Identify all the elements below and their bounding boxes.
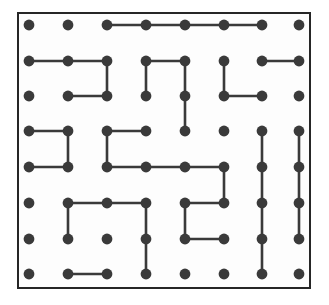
grid-dot-r0-c6[interactable] xyxy=(257,20,268,31)
grid-dot-r2-c3[interactable] xyxy=(141,91,152,102)
grid-dot-r4-c3[interactable] xyxy=(141,162,152,173)
grid-dot-r5-c6[interactable] xyxy=(257,198,268,209)
grid-dot-r5-c3[interactable] xyxy=(141,198,152,209)
grid-dot-r2-c1[interactable] xyxy=(63,91,74,102)
grid-dot-r7-c1[interactable] xyxy=(63,269,74,280)
grid-dot-r6-c2[interactable] xyxy=(102,234,113,245)
grid-dot-r3-c5[interactable] xyxy=(219,126,230,137)
grid-dot-r7-c3[interactable] xyxy=(141,269,152,280)
grid-dot-r7-c5[interactable] xyxy=(219,269,230,280)
grid-dot-r3-c1[interactable] xyxy=(63,126,74,137)
grid-dot-r3-c3[interactable] xyxy=(141,126,152,137)
grid-dot-r4-c2[interactable] xyxy=(102,162,113,173)
grid-dot-r7-c7[interactable] xyxy=(294,269,305,280)
grid-dot-r6-c1[interactable] xyxy=(63,234,74,245)
grid-dot-r1-c5[interactable] xyxy=(219,56,230,67)
grid-dot-r6-c3[interactable] xyxy=(141,234,152,245)
grid-dot-r1-c1[interactable] xyxy=(63,56,74,67)
grid-dot-r6-c4[interactable] xyxy=(180,234,191,245)
grid-dot-r4-c7[interactable] xyxy=(294,162,305,173)
grid-dot-r5-c5[interactable] xyxy=(219,198,230,209)
grid-dot-r4-c4[interactable] xyxy=(180,162,191,173)
grid-dot-r4-c1[interactable] xyxy=(63,162,74,173)
grid-dot-r2-c2[interactable] xyxy=(102,91,113,102)
grid-dot-r7-c4[interactable] xyxy=(180,269,191,280)
grid-dot-r4-c5[interactable] xyxy=(219,162,230,173)
grid-dot-r4-c0[interactable] xyxy=(24,162,35,173)
grid-dot-r0-c0[interactable] xyxy=(24,20,35,31)
grid-dot-r1-c2[interactable] xyxy=(102,56,113,67)
grid-dot-r5-c4[interactable] xyxy=(180,198,191,209)
grid-dot-r7-c0[interactable] xyxy=(24,269,35,280)
grid-dot-r7-c6[interactable] xyxy=(257,269,268,280)
grid-dot-r6-c7[interactable] xyxy=(294,234,305,245)
grid-dot-r1-c4[interactable] xyxy=(180,56,191,67)
grid-dot-r3-c4[interactable] xyxy=(180,126,191,137)
grid-dot-r1-c3[interactable] xyxy=(141,56,152,67)
grid-dot-r5-c1[interactable] xyxy=(63,198,74,209)
grid-dot-r3-c2[interactable] xyxy=(102,126,113,137)
grid-dot-r6-c5[interactable] xyxy=(219,234,230,245)
grid-dot-r2-c4[interactable] xyxy=(180,91,191,102)
grid-dot-r3-c0[interactable] xyxy=(24,126,35,137)
grid-dot-r1-c6[interactable] xyxy=(257,56,268,67)
grid-dot-r3-c7[interactable] xyxy=(294,126,305,137)
grid-dot-r3-c6[interactable] xyxy=(257,126,268,137)
puzzle-canvas xyxy=(0,0,329,305)
grid-dot-r2-c5[interactable] xyxy=(219,91,230,102)
grid-dot-r0-c3[interactable] xyxy=(141,20,152,31)
grid-dot-r5-c7[interactable] xyxy=(294,198,305,209)
grid-dot-r5-c0[interactable] xyxy=(24,198,35,209)
grid-dot-r6-c0[interactable] xyxy=(24,234,35,245)
grid-dot-r1-c7[interactable] xyxy=(294,56,305,67)
grid-dot-r2-c0[interactable] xyxy=(24,91,35,102)
grid-dot-r0-c2[interactable] xyxy=(102,20,113,31)
grid-dot-r7-c2[interactable] xyxy=(102,269,113,280)
dot-grid-diagram[interactable] xyxy=(0,0,329,305)
grid-dot-r4-c6[interactable] xyxy=(257,162,268,173)
grid-dot-r1-c0[interactable] xyxy=(24,56,35,67)
grid-dot-r6-c6[interactable] xyxy=(257,234,268,245)
grid-dot-r5-c2[interactable] xyxy=(102,198,113,209)
grid-dot-r2-c6[interactable] xyxy=(257,91,268,102)
grid-dot-r0-c4[interactable] xyxy=(180,20,191,31)
grid-dot-r0-c5[interactable] xyxy=(219,20,230,31)
grid-dot-r0-c7[interactable] xyxy=(294,20,305,31)
grid-dot-r2-c7[interactable] xyxy=(294,91,305,102)
grid-dot-r0-c1[interactable] xyxy=(63,20,74,31)
